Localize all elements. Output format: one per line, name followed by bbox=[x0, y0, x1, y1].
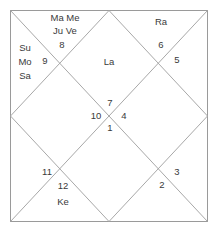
house-number-3: 3 bbox=[174, 167, 179, 177]
chart-lines bbox=[0, 0, 218, 231]
birth-chart: 1 2 3 4 5 6 7 8 9 10 11 12 La Ma Me Ju V… bbox=[0, 0, 218, 231]
planet-moon: Mo bbox=[18, 57, 31, 67]
house-number-8: 8 bbox=[59, 40, 64, 50]
house-number-2: 2 bbox=[159, 180, 164, 190]
house-number-9: 9 bbox=[42, 56, 47, 66]
house-number-4: 4 bbox=[121, 111, 126, 121]
house-number-7: 7 bbox=[107, 98, 112, 108]
planet-rahu: Ra bbox=[155, 17, 167, 27]
lagna-label: La bbox=[104, 57, 115, 67]
planet-group-house-8-row-1: Ma Me bbox=[50, 12, 79, 25]
house-number-5: 5 bbox=[174, 55, 179, 65]
house-number-12: 12 bbox=[58, 181, 69, 191]
house-number-1: 1 bbox=[107, 123, 112, 133]
planet-saturn: Sa bbox=[19, 71, 31, 81]
planet-sun: Su bbox=[19, 43, 31, 53]
house-number-6: 6 bbox=[158, 40, 163, 50]
house-number-10: 10 bbox=[91, 111, 102, 121]
planet-group-house-8-row-2: Ju Ve bbox=[53, 25, 77, 38]
house-number-11: 11 bbox=[42, 167, 52, 177]
planet-ketu: Ke bbox=[57, 197, 69, 207]
